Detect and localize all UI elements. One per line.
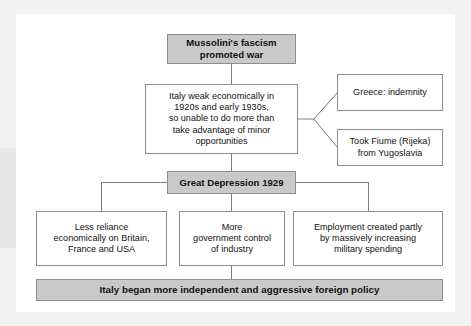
node-gov-control-line3: of industry — [193, 244, 271, 255]
node-less-reliance-line3: France and USA — [53, 244, 149, 255]
connector-gd-left-drop — [101, 182, 102, 211]
node-italy-weak-line5: opportunities — [169, 136, 275, 147]
node-italy-weak-line2: 1920s and early 1930s, — [169, 102, 275, 113]
node-gov-control-line1: More — [193, 222, 271, 233]
node-conclusion: Italy began more independent and aggress… — [36, 279, 443, 301]
node-less-reliance-line2: economically on Britain, — [53, 233, 149, 244]
node-header-line2: promoted war — [186, 49, 276, 61]
diagram-canvas: Mussolini's fascism promoted war Italy w… — [0, 0, 471, 326]
node-header-line1: Mussolini's fascism — [186, 37, 276, 49]
node-gov-control: More government control of industry — [179, 211, 285, 266]
node-italy-weak-line3: so unable to do more than — [169, 113, 275, 124]
node-great-depression: Great Depression 1929 — [167, 171, 296, 194]
node-employment: Employment created partly by massively i… — [293, 211, 443, 266]
connector-gd-left-arm — [101, 182, 167, 183]
node-gov-control-line2: government control — [193, 233, 271, 244]
node-employment-line1: Employment created partly — [314, 222, 422, 233]
connector-gd-right-arm — [296, 182, 368, 183]
node-fiume-line2: from Yugoslavia — [350, 148, 431, 159]
node-italy-weak-line4: take advantage of minor — [169, 125, 275, 136]
node-employment-line3: military spending — [314, 244, 422, 255]
node-great-depression-label: Great Depression 1929 — [180, 177, 284, 189]
connector-gd-right-drop — [368, 182, 369, 211]
node-employment-line2: by massively increasing — [314, 233, 422, 244]
node-less-reliance: Less reliance economically on Britain, F… — [36, 211, 167, 266]
node-greece-line1: Greece: indemnity — [353, 87, 427, 98]
node-less-reliance-line1: Less reliance — [53, 222, 149, 233]
node-fiume: Took Fiume (Rijeka) from Yugoslavia — [337, 129, 443, 166]
node-greece: Greece: indemnity — [337, 74, 443, 111]
connector-gov-control-to-conclusion — [231, 266, 232, 279]
node-italy-weak-line1: Italy weak economically in — [169, 91, 275, 102]
node-header: Mussolini's fascism promoted war — [167, 34, 296, 64]
node-conclusion-label: Italy began more independent and aggress… — [100, 284, 380, 296]
node-fiume-line1: Took Fiume (Rijeka) — [350, 136, 431, 147]
connector-gd-center-drop — [231, 194, 232, 211]
node-italy-weak: Italy weak economically in 1920s and ear… — [145, 84, 298, 154]
